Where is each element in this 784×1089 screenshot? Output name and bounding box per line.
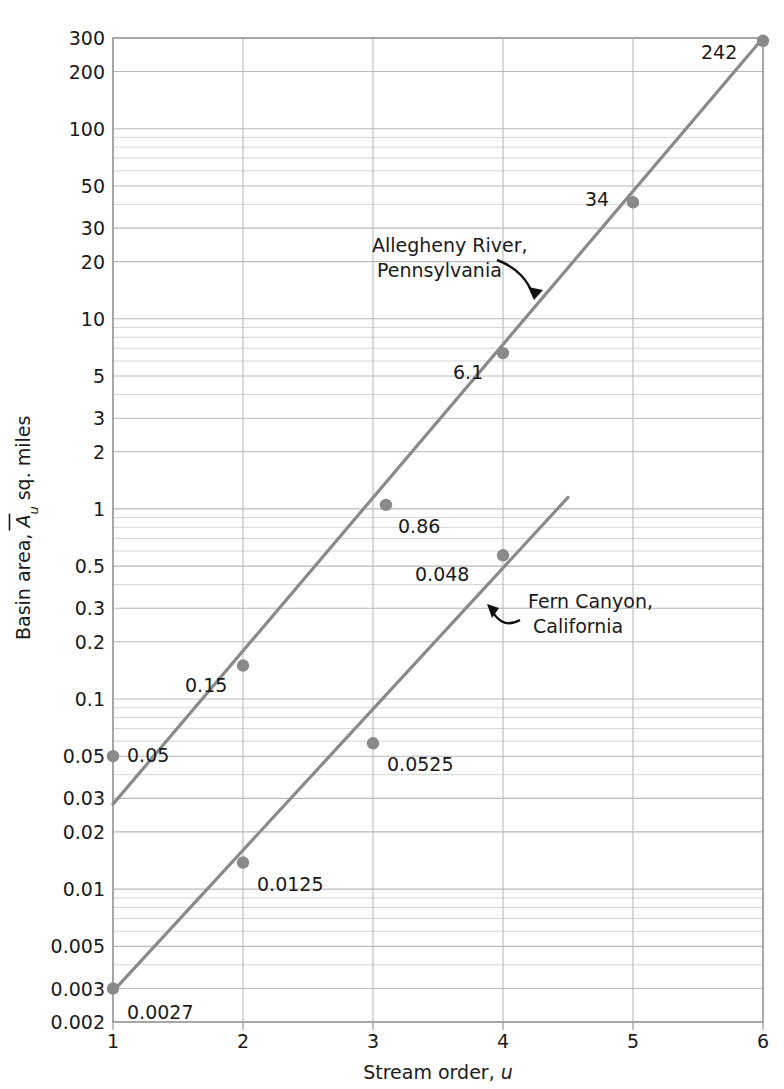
y-tick-label: 0.3 [75, 597, 105, 619]
x-tick-label: 5 [627, 1030, 639, 1052]
data-point [497, 347, 509, 359]
data-point [107, 750, 119, 762]
x-axis-title: Stream order, u [363, 1061, 513, 1083]
y-tick-label: 3 [93, 407, 105, 429]
data-point-label: 0.0027 [127, 1001, 193, 1023]
y-axis-title-subscript: u [26, 506, 41, 514]
y-tick-label: 0.02 [63, 821, 105, 843]
annotation-allegheny-line1: Allegheny River, [372, 234, 528, 256]
chart-background [0, 0, 784, 1089]
y-tick-label: 20 [81, 251, 105, 273]
data-point [380, 499, 392, 511]
x-tick-label: 2 [237, 1030, 249, 1052]
y-tick-label: 0.005 [51, 935, 105, 957]
x-axis-title-symbol: u [501, 1061, 513, 1083]
y-tick-label: 0.01 [63, 878, 105, 900]
annotation-fern-line1: Fern Canyon, [528, 590, 653, 612]
y-tick-label: 0.05 [63, 745, 105, 767]
y-tick-label: 50 [81, 175, 105, 197]
y-tick-label: 30 [81, 217, 105, 239]
y-tick-label: 0.1 [75, 688, 105, 710]
annotation-fern-line2: California [533, 615, 623, 637]
data-point-label: 34 [585, 188, 609, 210]
data-point [107, 982, 119, 994]
x-tick-label: 1 [107, 1030, 119, 1052]
data-point-label: 0.048 [415, 563, 469, 585]
data-point-label: 6.1 [453, 361, 483, 383]
data-point [757, 35, 769, 47]
data-point-label: 242 [701, 41, 737, 63]
y-tick-label: 0.2 [75, 631, 105, 653]
y-tick-label: 10 [81, 308, 105, 330]
y-axis-title-symbol: A [12, 515, 34, 530]
y-tick-label: 1 [93, 498, 105, 520]
annotation-allegheny-line2: Pennsylvania [377, 259, 502, 281]
y-tick-label: 5 [93, 365, 105, 387]
x-axis-title-prefix: Stream order, [363, 1061, 501, 1083]
y-tick-label: 200 [69, 61, 105, 83]
y-tick-label: 0.002 [51, 1011, 105, 1033]
data-point-label: 0.0525 [387, 753, 453, 775]
x-tick-label: 6 [757, 1030, 769, 1052]
y-tick-label: 300 [69, 27, 105, 49]
y-tick-label: 0.003 [51, 978, 105, 1000]
chart-figure: 3002001005030201053210.50.30.20.10.050.0… [0, 0, 784, 1089]
data-point [627, 196, 639, 208]
data-point [497, 549, 509, 561]
data-point [367, 737, 379, 749]
log-scatter-chart: 3002001005030201053210.50.30.20.10.050.0… [0, 0, 784, 1089]
data-point-label: 0.86 [398, 515, 440, 537]
y-axis-title-suffix: sq. miles [12, 416, 34, 507]
x-tick-label: 4 [497, 1030, 509, 1052]
data-point-label: 0.05 [127, 744, 169, 766]
y-axis-title-prefix: Basin area, [12, 528, 34, 640]
y-tick-label: 0.03 [63, 787, 105, 809]
y-tick-label: 100 [69, 118, 105, 140]
y-tick-label: 0.5 [75, 555, 105, 577]
data-point [237, 659, 249, 671]
data-point-label: 0.15 [185, 674, 227, 696]
x-tick-label: 3 [367, 1030, 379, 1052]
data-point-label: 0.0125 [257, 873, 323, 895]
y-tick-label: 2 [93, 441, 105, 463]
data-point [237, 856, 249, 868]
